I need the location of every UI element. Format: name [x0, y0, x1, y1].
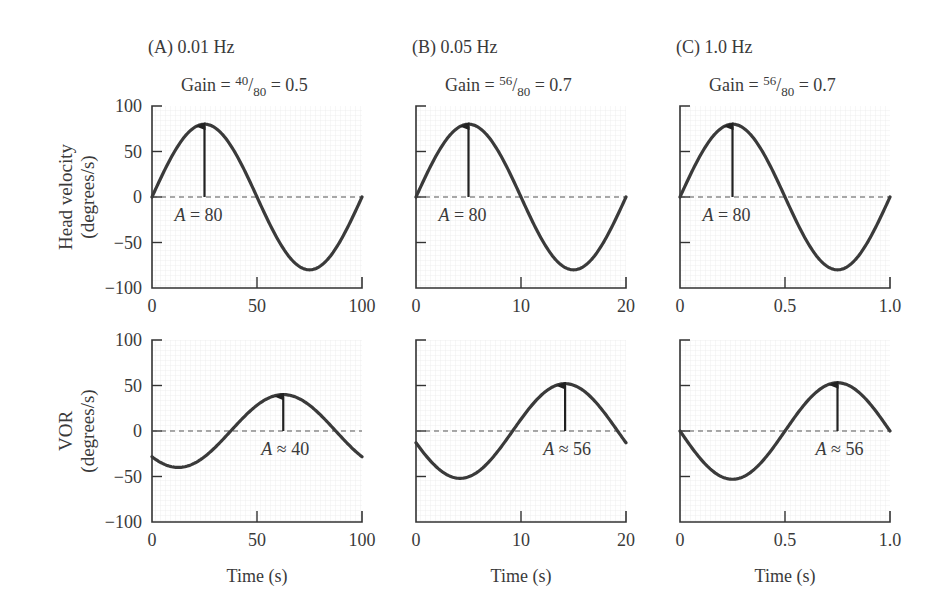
gain-formula: Gain = 56/80 = 0.7 — [445, 73, 572, 99]
y-tick-label: 100 — [115, 330, 142, 350]
panel-title: (C) 1.0 Hz — [676, 37, 752, 58]
x-tick-label: 1.0 — [879, 530, 902, 550]
amplitude-label: A = 80 — [437, 205, 486, 225]
vor-plot: 100500−50−100050100A ≈ 40VOR(degrees/s) — [55, 330, 376, 550]
panel-b: (B) 0.05 HzGain = 56/80 = 0.701020A = 80… — [412, 37, 636, 587]
x-tick-label: 50 — [248, 530, 266, 550]
head-velocity-plot: 100500−50−100050100A = 80Head velocity(d… — [55, 96, 376, 316]
x-tick-label: 0.5 — [774, 530, 797, 550]
y-tick-label: 50 — [124, 376, 142, 396]
x-tick-label: 0 — [676, 530, 685, 550]
gain-formula: Gain = 56/80 = 0.7 — [709, 73, 836, 99]
x-axis-label: Time (s) — [227, 566, 288, 587]
y-tick-label: −50 — [114, 467, 142, 487]
x-tick-label: 100 — [349, 530, 376, 550]
head-velocity-plot: 00.51.0A = 80 — [676, 106, 902, 316]
amplitude-label: A ≈ 56 — [815, 439, 864, 459]
amplitude-label: A = 80 — [173, 205, 222, 225]
x-tick-label: 0.5 — [774, 296, 797, 316]
panel-c: (C) 1.0 HzGain = 56/80 = 0.700.51.0A = 8… — [676, 37, 902, 587]
y-tick-label: −100 — [105, 512, 142, 532]
x-tick-label: 0 — [412, 530, 421, 550]
amplitude-label: A ≈ 56 — [542, 439, 591, 459]
x-tick-label: 0 — [676, 296, 685, 316]
y-tick-label: −100 — [105, 278, 142, 298]
x-tick-label: 20 — [617, 530, 635, 550]
x-tick-label: 10 — [512, 530, 530, 550]
y-axis-label: Head velocity(degrees/s) — [55, 143, 99, 250]
x-tick-label: 0 — [412, 296, 421, 316]
vor-plot: 00.51.0A ≈ 56 — [676, 340, 902, 550]
x-tick-label: 20 — [617, 296, 635, 316]
vor-gain-figure: (A) 0.01 HzGain = 40/80 = 0.5100500−50−1… — [0, 0, 936, 605]
x-axis-label: Time (s) — [755, 566, 816, 587]
x-axis-label: Time (s) — [491, 566, 552, 587]
x-tick-label: 10 — [512, 296, 530, 316]
x-tick-label: 50 — [248, 296, 266, 316]
y-tick-label: −50 — [114, 233, 142, 253]
y-tick-label: 0 — [133, 421, 142, 441]
x-tick-label: 1.0 — [879, 296, 902, 316]
amplitude-label: A ≈ 40 — [260, 439, 309, 459]
y-tick-label: 0 — [133, 187, 142, 207]
panel-a: (A) 0.01 HzGain = 40/80 = 0.5100500−50−1… — [55, 37, 376, 587]
head-velocity-plot: 01020A = 80 — [412, 106, 636, 316]
panel-title: (B) 0.05 Hz — [412, 37, 497, 58]
gain-formula: Gain = 40/80 = 0.5 — [181, 73, 308, 99]
amplitude-label: A = 80 — [701, 205, 750, 225]
x-tick-label: 0 — [148, 530, 157, 550]
y-tick-label: 50 — [124, 142, 142, 162]
x-tick-label: 100 — [349, 296, 376, 316]
y-axis-label: VOR(degrees/s) — [55, 389, 99, 472]
y-tick-label: 100 — [115, 96, 142, 116]
x-tick-label: 0 — [148, 296, 157, 316]
panel-title: (A) 0.01 Hz — [148, 37, 234, 58]
vor-plot: 01020A ≈ 56 — [412, 340, 636, 550]
